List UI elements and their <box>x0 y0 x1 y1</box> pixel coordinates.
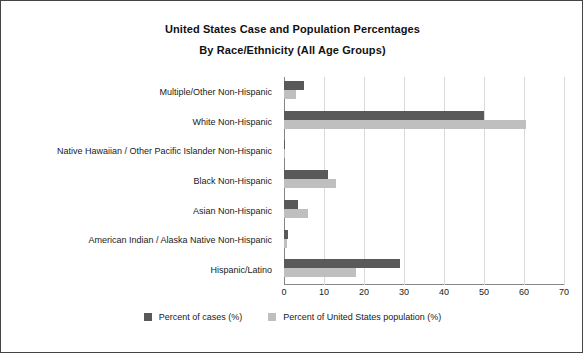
chart-title: United States Case and Population Percen… <box>1 19 583 40</box>
bar-group <box>284 196 564 226</box>
chart-subtitle: By Race/Ethnicity (All Age Groups) <box>1 40 583 61</box>
chart-legend: Percent of cases (%)Percent of United St… <box>1 312 583 322</box>
bar <box>284 149 285 158</box>
bar-group <box>284 107 564 137</box>
legend-item[interactable]: Percent of cases (%) <box>144 312 243 322</box>
value-tick-label: 60 <box>519 287 529 297</box>
category-label: Native Hawaiian / Other Pacific Islander… <box>57 136 272 166</box>
legend-swatch-icon <box>144 313 152 321</box>
category-label: Black Non-Hispanic <box>193 166 272 196</box>
legend-label: Percent of United States population (%) <box>283 312 441 322</box>
value-tick-label: 70 <box>559 287 569 297</box>
chart-title-block: United States Case and Population Percen… <box>1 19 583 61</box>
value-tick-label: 10 <box>319 287 329 297</box>
value-tick-label: 50 <box>479 287 489 297</box>
bar-group <box>284 226 564 256</box>
bar <box>284 200 298 209</box>
legend-swatch-icon <box>268 313 276 321</box>
legend-item[interactable]: Percent of United States population (%) <box>268 312 441 322</box>
bar <box>284 111 484 120</box>
bar-group <box>284 166 564 196</box>
value-axis-ticks: 010203040506070 <box>284 287 564 303</box>
bar-group <box>284 77 564 107</box>
bar-group <box>284 136 564 166</box>
category-label: Multiple/Other Non-Hispanic <box>159 77 272 107</box>
category-label: Hispanic/Latino <box>210 255 272 285</box>
bar <box>284 90 296 99</box>
bar <box>284 120 526 129</box>
bar <box>284 239 287 248</box>
plot-area <box>284 77 564 285</box>
legend-label: Percent of cases (%) <box>159 312 243 322</box>
value-tick-label: 40 <box>439 287 449 297</box>
value-tick-label: 30 <box>399 287 409 297</box>
bar-group <box>284 255 564 285</box>
bar <box>284 170 328 179</box>
gridline <box>564 77 565 285</box>
value-tick-label: 20 <box>359 287 369 297</box>
category-label: American Indian / Alaska Native Non-Hisp… <box>88 226 272 256</box>
bar <box>284 259 400 268</box>
value-tick-label: 0 <box>281 287 286 297</box>
bar <box>284 140 285 149</box>
chart-container: United States Case and Population Percen… <box>0 0 583 353</box>
category-label: Asian Non-Hispanic <box>193 196 272 226</box>
category-axis-labels: Multiple/Other Non-HispanicWhite Non-His… <box>1 77 278 285</box>
bar <box>284 179 336 188</box>
bar <box>284 230 288 239</box>
bar <box>284 268 356 277</box>
bar <box>284 209 308 218</box>
bar <box>284 81 304 90</box>
category-label: White Non-Hispanic <box>192 107 272 137</box>
